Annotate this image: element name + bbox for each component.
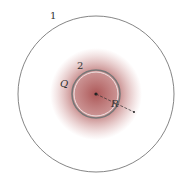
diagram-canvas: 1 2 Q R [0,0,184,183]
label-2: 2 [77,60,83,71]
label-q: Q [60,78,68,89]
label-r: R [110,98,119,109]
label-1: 1 [50,10,56,21]
radius-arrow-tip [133,111,135,113]
